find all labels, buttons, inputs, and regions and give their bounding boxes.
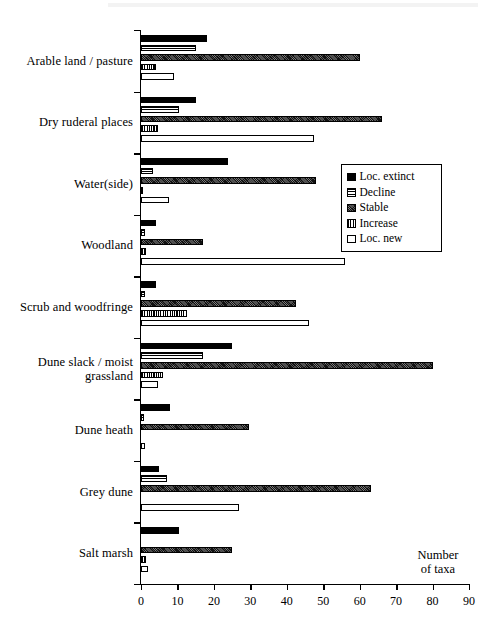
bar-loc-extinct — [141, 404, 170, 411]
bar-decline — [141, 352, 203, 359]
bar-decline — [141, 106, 179, 113]
legend-swatch-loc-extinct-icon — [347, 173, 356, 182]
x-axis-tick-label: 90 — [454, 594, 484, 609]
x-axis-tick — [360, 584, 361, 590]
category-label: Scrub and woodfringe — [20, 300, 133, 314]
bar-loc-new — [141, 381, 158, 388]
legend-swatch-increase-icon — [347, 219, 356, 228]
bar-decline — [141, 45, 196, 52]
y-axis-tick — [134, 522, 141, 523]
bar-decline — [141, 229, 145, 236]
legend-item-stable: Stable — [347, 200, 437, 216]
bar-loc-extinct — [141, 220, 156, 227]
bar-loc-extinct — [141, 527, 179, 534]
x-axis-tick — [469, 584, 470, 590]
legend-swatch-decline-icon — [347, 188, 356, 197]
x-axis-title-line-1: Number — [392, 548, 484, 562]
category-label: Woodland — [81, 238, 133, 252]
x-axis-tick — [214, 584, 215, 590]
bar-chart: Arable land / pastureDry ruderal placesW… — [0, 0, 491, 624]
legend-item-loc-extinct: Loc. extinct — [347, 169, 437, 185]
bar-loc-extinct — [141, 35, 207, 42]
category-label: Arable land / pasture — [26, 54, 133, 68]
y-axis-tick — [134, 276, 141, 277]
bar-loc-new — [141, 443, 145, 450]
bar-loc-extinct — [141, 281, 156, 288]
y-axis-tick — [134, 92, 141, 93]
y-axis-tick — [134, 215, 141, 216]
bar-stable — [141, 485, 371, 492]
bar-loc-extinct — [141, 97, 196, 104]
legend-label-stable: Stable — [360, 200, 389, 216]
bar-increase — [141, 556, 146, 563]
legend-item-loc-new: Loc. new — [347, 231, 437, 247]
page-header-rule — [108, 3, 478, 7]
x-axis-tick — [323, 584, 324, 590]
x-axis-tick-label: 70 — [381, 594, 411, 609]
category-label: Salt marsh — [79, 546, 133, 560]
category-label: Water(side) — [74, 177, 133, 191]
x-axis-tick — [433, 584, 434, 590]
legend-item-decline: Decline — [347, 185, 437, 201]
bar-loc-new — [141, 197, 169, 204]
legend-label-loc-extinct: Loc. extinct — [360, 169, 415, 185]
y-axis-tick — [134, 461, 141, 462]
x-axis-tick-label: 40 — [272, 594, 302, 609]
bar-loc-extinct — [141, 466, 159, 473]
x-axis-tick-label: 0 — [126, 594, 156, 609]
bar-stable — [141, 177, 316, 184]
bar-loc-extinct — [141, 158, 228, 165]
x-axis-tick-label: 30 — [235, 594, 265, 609]
chart-legend: Loc. extinct Decline Stable Increase Loc… — [341, 164, 442, 252]
y-axis-tick — [134, 399, 141, 400]
category-label: Dry ruderal places — [39, 115, 133, 129]
bar-decline — [141, 475, 167, 482]
bar-loc-new — [141, 73, 174, 80]
bar-stable — [141, 424, 249, 431]
bar-stable — [141, 547, 232, 554]
y-axis-tick — [134, 584, 141, 585]
bar-increase — [141, 125, 158, 132]
bar-increase — [141, 248, 146, 255]
legend-label-decline: Decline — [360, 185, 396, 201]
x-axis-tick — [250, 584, 251, 590]
bar-increase — [141, 187, 143, 194]
bar-decline — [141, 414, 144, 421]
bar-stable — [141, 362, 433, 369]
bar-loc-extinct — [141, 343, 232, 350]
bar-stable — [141, 116, 382, 123]
legend-item-increase: Increase — [347, 216, 437, 232]
bar-loc-new — [141, 566, 148, 573]
x-axis-tick-label: 80 — [418, 594, 448, 609]
legend-swatch-loc-new-icon — [347, 235, 356, 244]
bar-increase — [141, 372, 163, 379]
x-axis-tick-label: 10 — [162, 594, 192, 609]
x-axis-tick-label: 20 — [199, 594, 229, 609]
x-axis-tick — [177, 584, 178, 590]
category-label: Grey dune — [80, 485, 133, 499]
x-axis-title: Number of taxa — [392, 548, 484, 576]
y-axis-tick — [134, 30, 141, 31]
x-axis-tick — [141, 584, 142, 590]
category-label: Dune slack / moist grassland — [38, 355, 133, 383]
bar-increase — [141, 64, 156, 71]
bar-decline — [141, 168, 153, 175]
category-label: Dune heath — [75, 423, 133, 437]
x-axis-tick-label: 60 — [345, 594, 375, 609]
bar-loc-new — [141, 258, 345, 265]
bar-stable — [141, 54, 360, 61]
y-axis-tick — [134, 153, 141, 154]
x-axis-tick-label: 50 — [308, 594, 338, 609]
x-axis-line — [140, 584, 470, 585]
y-axis-tick — [134, 338, 141, 339]
legend-label-loc-new: Loc. new — [360, 231, 403, 247]
legend-label-increase: Increase — [360, 216, 398, 232]
bar-increase — [141, 310, 187, 317]
bar-stable — [141, 239, 203, 246]
bar-loc-new — [141, 504, 239, 511]
bar-stable — [141, 300, 296, 307]
x-axis-tick — [396, 584, 397, 590]
bar-decline — [141, 291, 145, 298]
bar-loc-new — [141, 135, 314, 142]
legend-swatch-stable-icon — [347, 204, 356, 213]
